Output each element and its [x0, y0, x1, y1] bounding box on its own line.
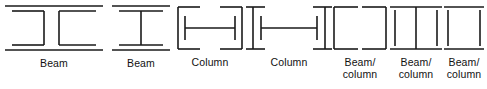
shape-drawing-narrow-flange-beam [106, 0, 176, 55]
shape-label: Beam [40, 58, 68, 70]
shape-drawing-hollow-square-tube-tall [441, 0, 487, 55]
shape-label: Column [192, 57, 229, 69]
shape-item-narrow-flange-column: Column [245, 0, 333, 89]
structural-shapes-figure: Beam Beam [0, 0, 487, 89]
shape-item-hollow-tube-with-divider: Beam/ column [387, 0, 445, 89]
shape-drawing-hollow-tube-with-divider [387, 0, 445, 55]
shape-drawing-hollow-square-tube [329, 0, 391, 55]
shape-label: Beam/ column [343, 57, 377, 80]
shape-drawing-wide-flange-column [172, 0, 248, 55]
shape-item-hollow-square-tube-tall: Beam/ column [441, 0, 487, 89]
shape-label: Column [271, 57, 308, 69]
shape-item-wide-flange-column: Column [172, 0, 248, 89]
shape-label: Beam/ column [447, 57, 481, 80]
shape-drawing-wide-flange-beam [2, 0, 106, 55]
shape-item-hollow-square-tube: Beam/ column [329, 0, 391, 89]
shape-label: Beam/ column [399, 57, 433, 80]
shape-label: Beam [127, 58, 155, 70]
shape-drawing-narrow-flange-column [245, 0, 333, 55]
shape-item-narrow-flange-beam: Beam [106, 0, 176, 89]
shape-item-wide-flange-beam: Beam [2, 0, 106, 89]
